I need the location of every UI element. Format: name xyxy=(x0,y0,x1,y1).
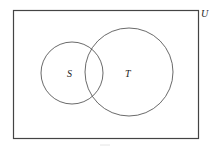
venn-diagram: U S T xyxy=(0,0,220,150)
set-t-label: T xyxy=(125,68,132,79)
universe-label: U xyxy=(201,8,209,19)
set-s-label: S xyxy=(67,68,72,79)
set-s-circle xyxy=(41,42,103,104)
